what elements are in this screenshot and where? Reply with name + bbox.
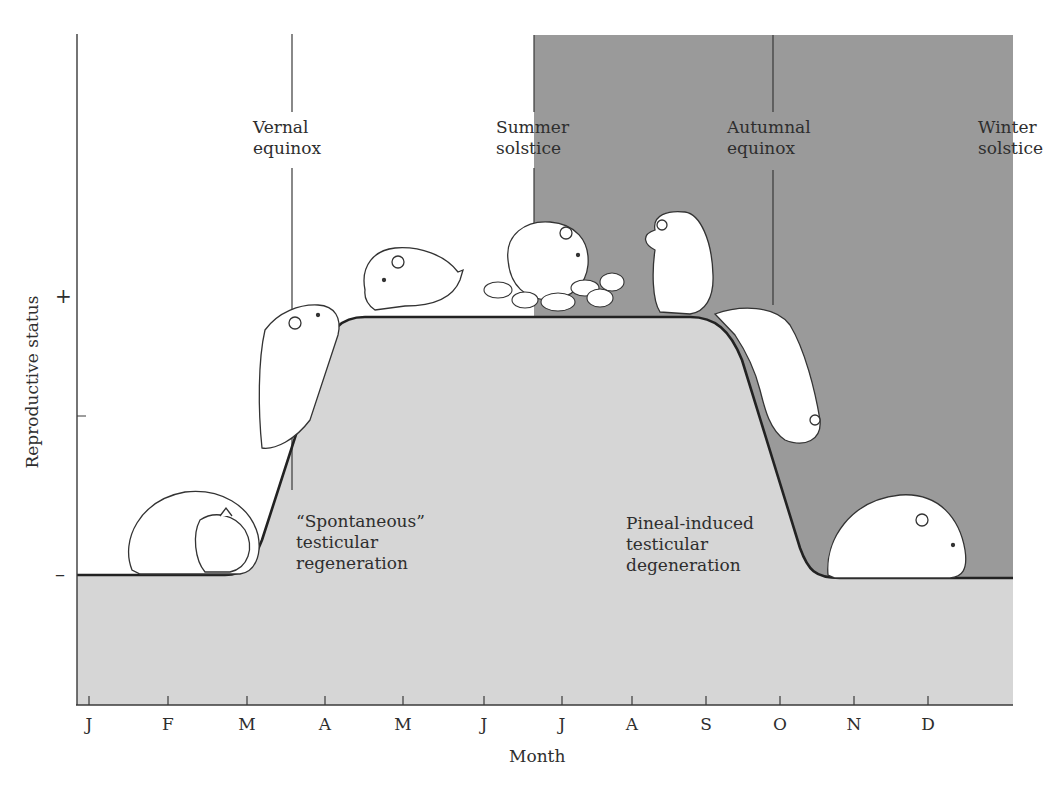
y-axis-label: Reproductive status xyxy=(22,292,42,472)
x-tick-label: J xyxy=(74,714,104,734)
x-tick-label: S xyxy=(691,714,721,734)
x-tick-label: D xyxy=(913,714,943,734)
autumnal-equinox-label: Autumnal equinox xyxy=(727,117,811,159)
degeneration-annotation: Pineal-induced testicular degeneration xyxy=(626,513,754,576)
x-tick-label: A xyxy=(310,714,340,734)
x-tick-label: A xyxy=(617,714,647,734)
x-tick-label: M xyxy=(232,714,262,734)
y-tick-plus: + xyxy=(55,284,72,308)
x-tick-label: J xyxy=(547,714,577,734)
x-tick-label: O xyxy=(765,714,795,734)
sleeping-hamster-icon xyxy=(129,491,260,574)
winter-solstice-label: Winter solstice xyxy=(978,117,1043,159)
standing-hamster-icon xyxy=(364,248,463,310)
x-tick-label: M xyxy=(388,714,418,734)
x-tick-label: N xyxy=(839,714,869,734)
x-tick-label: F xyxy=(153,714,183,734)
regeneration-annotation: “Spontaneous” testicular regeneration xyxy=(296,511,425,574)
seasonal-reproduction-chart: Vernal equinox Summer solstice Autumnal … xyxy=(0,0,1064,792)
summer-solstice-label: Summer solstice xyxy=(496,117,569,159)
vernal-equinox-label: Vernal equinox xyxy=(253,117,321,159)
x-tick-label: J xyxy=(469,714,499,734)
y-tick-minus: – xyxy=(55,562,65,586)
x-axis-label: Month xyxy=(509,746,565,766)
